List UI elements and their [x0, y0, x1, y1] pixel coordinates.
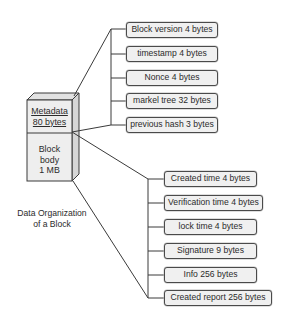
- metadata-label: Metadata 80 bytes: [27, 106, 72, 127]
- metadata-field-merkle-tree: markel tree 32 bytes: [126, 93, 218, 109]
- block-body-title-1: Block: [27, 144, 72, 155]
- body-field-info: Info 256 bytes: [164, 267, 257, 283]
- block-body-title-2: body: [27, 155, 72, 166]
- diagram-caption: Data Organization of a Block: [6, 208, 98, 230]
- caption-line-1: Data Organization: [6, 208, 98, 219]
- metadata-field-previous-hash: previous hash 3 bytes: [126, 117, 218, 133]
- body-field-lock-time: lock time 4 bytes: [164, 219, 257, 235]
- metadata-title: Metadata: [27, 106, 72, 117]
- body-field-created-report: Created report 256 bytes: [164, 290, 272, 306]
- metadata-field-nonce: Nonce 4 bytes: [126, 70, 218, 86]
- metadata-field-timestamp: timestamp 4 bytes: [126, 46, 218, 62]
- metadata-field-block-version: Block version 4 bytes: [126, 22, 218, 38]
- body-field-created-time: Created time 4 bytes: [164, 171, 257, 187]
- metadata-size: 80 bytes: [27, 117, 72, 128]
- block-body-size: 1 MB: [27, 165, 72, 176]
- caption-line-2: of a Block: [6, 219, 98, 230]
- body-field-verification-time: Verification time 4 bytes: [164, 195, 263, 211]
- block-body-label: Block body 1 MB: [27, 144, 72, 176]
- body-field-signature: Signature 9 bytes: [164, 243, 257, 259]
- block-data-organization-diagram: Metadata 80 bytes Block body 1 MB Data O…: [0, 0, 285, 326]
